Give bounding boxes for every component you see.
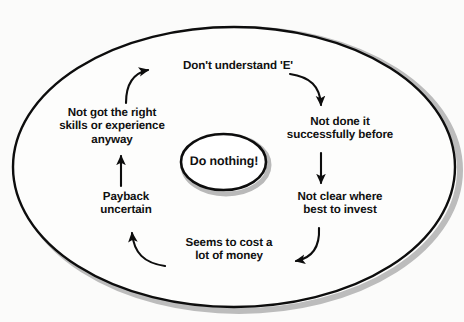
node-label-dont-understand: Don't understand 'E' — [158, 59, 318, 72]
center-label-do-nothing: Do nothing! — [181, 154, 267, 168]
node-label-not-done-it: Not done it successfully before — [278, 115, 402, 142]
node-label-not-got-skills: Not got the right skills or experience a… — [44, 106, 180, 146]
node-label-seems-to-cost: Seems to cost a lot of money — [165, 236, 293, 263]
node-label-not-clear: Not clear where best to invest — [278, 190, 402, 217]
node-label-payback: Payback uncertain — [72, 190, 180, 217]
diagram-canvas: Don't understand 'E' Not got the right s… — [0, 0, 464, 322]
